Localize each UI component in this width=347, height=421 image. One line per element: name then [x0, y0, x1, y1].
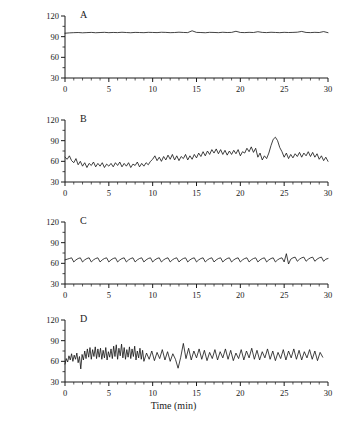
panel-a: Heart rate (bpm) A 306090120051015202530 [0, 4, 347, 100]
svg-text:0: 0 [63, 188, 67, 198]
svg-text:60: 60 [51, 356, 60, 366]
svg-text:30: 30 [324, 388, 333, 398]
svg-text:15: 15 [192, 84, 201, 94]
svg-text:5: 5 [107, 188, 111, 198]
svg-text:20: 20 [236, 388, 245, 398]
svg-text:120: 120 [46, 217, 59, 227]
plot-area-d: 306090120051015202530 [0, 308, 347, 404]
svg-text:30: 30 [51, 377, 60, 387]
svg-text:25: 25 [280, 388, 289, 398]
svg-text:120: 120 [46, 11, 59, 21]
svg-text:0: 0 [63, 84, 67, 94]
svg-text:20: 20 [236, 84, 245, 94]
svg-text:25: 25 [280, 290, 289, 300]
plot-area-a: 306090120051015202530 [0, 4, 347, 100]
svg-text:15: 15 [192, 290, 201, 300]
svg-text:20: 20 [236, 188, 245, 198]
svg-text:10: 10 [148, 84, 157, 94]
svg-text:20: 20 [236, 290, 245, 300]
svg-text:0: 0 [63, 388, 67, 398]
svg-text:0: 0 [63, 290, 67, 300]
svg-text:30: 30 [324, 188, 333, 198]
svg-text:5: 5 [107, 84, 111, 94]
svg-text:5: 5 [107, 290, 111, 300]
svg-text:30: 30 [324, 290, 333, 300]
svg-text:10: 10 [148, 188, 157, 198]
plot-area-b: 306090120051015202530 [0, 108, 347, 204]
svg-text:15: 15 [192, 188, 201, 198]
panel-d: Heart rate (bpm) D 306090120051015202530 [0, 308, 347, 404]
svg-text:120: 120 [46, 315, 59, 325]
svg-text:120: 120 [46, 115, 59, 125]
svg-text:15: 15 [192, 388, 201, 398]
svg-text:10: 10 [148, 290, 157, 300]
svg-text:25: 25 [280, 188, 289, 198]
svg-text:60: 60 [51, 258, 60, 268]
svg-text:30: 30 [51, 73, 60, 83]
panel-b: Heart rate (bpm) B 306090120051015202530 [0, 108, 347, 204]
svg-text:60: 60 [51, 156, 60, 166]
svg-text:90: 90 [51, 336, 60, 346]
svg-text:90: 90 [51, 32, 60, 42]
svg-text:90: 90 [51, 238, 60, 248]
svg-text:10: 10 [148, 388, 157, 398]
svg-text:30: 30 [324, 84, 333, 94]
svg-text:30: 30 [51, 279, 60, 289]
plot-area-c: 306090120051015202530 [0, 210, 347, 306]
svg-text:25: 25 [280, 84, 289, 94]
panel-c: Heart rate (bpm) C 306090120051015202530 [0, 210, 347, 306]
figure-container: Heart rate (bpm) A 306090120051015202530… [0, 0, 347, 421]
x-axis-title: Time (min) [0, 400, 347, 411]
svg-text:5: 5 [107, 388, 111, 398]
svg-text:90: 90 [51, 136, 60, 146]
svg-text:60: 60 [51, 52, 60, 62]
svg-text:30: 30 [51, 177, 60, 187]
